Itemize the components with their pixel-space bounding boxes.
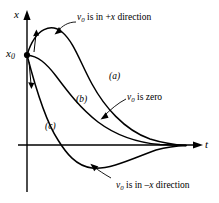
- y-axis-arrowhead: [23, 10, 30, 20]
- physics-figure: x t x0 (a) (b) (c) v0 is in +x direction…: [0, 0, 219, 203]
- annotation-v0-minus-x-text-before: is in –: [124, 180, 150, 190]
- x-axis-arrowhead: [193, 141, 203, 148]
- annotation-leaders: [55, 22, 127, 178]
- curve-c-path: [27, 55, 186, 168]
- figure-canvas: [0, 0, 219, 203]
- x-axis-label: t: [205, 139, 208, 150]
- annotation-v0-plus-x-text-after: direction: [115, 12, 151, 22]
- annotation-v0-minus-x: v0 is in –x direction: [116, 181, 190, 192]
- v0-down-arrow-head: [28, 82, 34, 89]
- curve-label-c: (c): [45, 122, 56, 132]
- leader-minus-x: [94, 167, 111, 178]
- axes-group: [18, 10, 203, 192]
- annotation-v0-zero: v0 is zero: [127, 93, 162, 104]
- y-axis-label: x: [14, 9, 19, 20]
- annotation-v0-plus-x: v0 is in +x direction: [77, 13, 151, 24]
- x0-label: x0: [6, 48, 15, 61]
- curve-label-a: (a): [109, 72, 120, 82]
- annotation-v0-plus-x-text-before: is in +: [85, 12, 111, 22]
- annotation-v0-minus-x-text-after: direction: [153, 180, 189, 190]
- x0-label-subscript: 0: [11, 52, 15, 61]
- leader-zero-arrowhead: [101, 112, 109, 119]
- curve-b-path: [27, 55, 186, 145]
- annotation-v0-zero-text-before: is zero: [135, 92, 162, 102]
- curve-label-b: (b): [76, 95, 87, 105]
